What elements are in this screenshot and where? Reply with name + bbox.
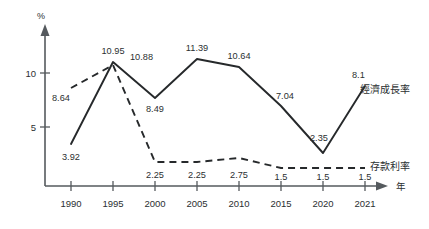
- chart-container: 10 5 % 1990 1995 2000 2005 2010 2015 202…: [0, 0, 429, 229]
- legend-label-economic-growth: 經濟成長率: [360, 83, 410, 95]
- data-label-solid-1990: 3.92: [62, 152, 80, 162]
- chart-legend: 經濟成長率 存款利率: [360, 83, 410, 172]
- data-label-dashed-2020: 1.5: [317, 172, 330, 182]
- data-label-solid-2020: 2.35: [310, 133, 328, 143]
- data-label-solid-2010: 10.64: [228, 51, 251, 61]
- data-label-solid-2021: 8.1: [352, 70, 365, 80]
- x-tick-label-2005: 2005: [186, 198, 207, 209]
- data-label-dashed-1990: 8.64: [52, 93, 70, 103]
- y-axis: 10 5 %: [25, 11, 50, 186]
- y-axis-unit-label: %: [37, 11, 45, 21]
- line-chart: 10 5 % 1990 1995 2000 2005 2010 2015 202…: [0, 0, 429, 229]
- dashed-series-data-labels: 8.64 10.88 2.25 2.25 2.75 1.5 1.5 1.5: [52, 52, 371, 182]
- x-tick-label-2010: 2010: [228, 198, 249, 209]
- x-tick-label-2020: 2020: [312, 198, 333, 209]
- solid-series-data-labels: 3.92 10.95 8.49 11.39 10.64 7.04 2.35 8.…: [62, 43, 365, 162]
- x-axis: 1990 1995 2000 2005 2010 2015 2020 2021 …: [45, 181, 406, 209]
- x-tick-label-1995: 1995: [102, 198, 123, 209]
- data-label-solid-1995: 10.95: [102, 46, 125, 56]
- x-tick-label-2021: 2021: [354, 198, 375, 209]
- y-tick-label-10: 10: [25, 68, 36, 79]
- y-tick-label-5: 5: [31, 122, 36, 133]
- data-label-solid-2000: 8.49: [146, 104, 164, 114]
- data-label-dashed-2021: 1.5: [359, 172, 372, 182]
- series-line-deposit-rate: [71, 65, 365, 168]
- data-label-dashed-2015: 1.5: [275, 172, 288, 182]
- x-axis-arrow-icon: [376, 182, 388, 191]
- data-label-solid-2005: 11.39: [186, 43, 208, 53]
- x-tick-label-2000: 2000: [144, 198, 165, 209]
- x-tick-label-1990: 1990: [60, 198, 81, 209]
- legend-label-deposit-rate: 存款利率: [370, 160, 410, 172]
- x-axis-name-label: 年: [396, 181, 406, 192]
- data-label-dashed-2000: 2.25: [146, 170, 164, 180]
- data-label-solid-2015: 7.04: [276, 91, 294, 101]
- data-label-dashed-1995: 10.88: [130, 52, 153, 62]
- data-label-dashed-2005: 2.25: [188, 170, 206, 180]
- x-tick-label-2015: 2015: [270, 198, 291, 209]
- data-label-dashed-2010: 2.75: [230, 170, 248, 180]
- y-axis-arrow-icon: [41, 24, 50, 36]
